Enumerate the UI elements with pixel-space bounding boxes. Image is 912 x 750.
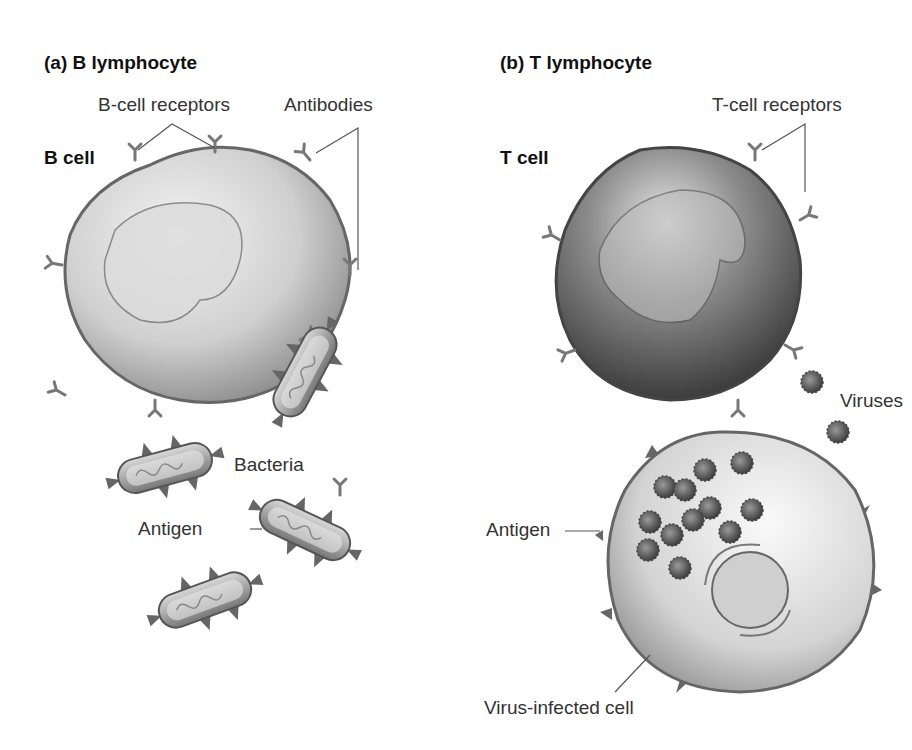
antigen-label-a: Antigen xyxy=(138,518,202,540)
b-cell-label: B cell xyxy=(44,147,95,169)
panel-a-title: (a) B lymphocyte xyxy=(44,52,197,74)
t-cell-receptors-label: T-cell receptors xyxy=(712,94,842,116)
panel-b-title: (b) T lymphocyte xyxy=(500,52,652,74)
virus-infected-cell-label: Virus-infected cell xyxy=(484,697,634,719)
t-cell-label: T cell xyxy=(500,147,549,169)
antibodies-label: Antibodies xyxy=(284,94,373,116)
viruses-label: Viruses xyxy=(840,390,903,412)
antigen-label-b: Antigen xyxy=(486,519,550,541)
t-cell xyxy=(543,144,817,416)
bacteria-label: Bacteria xyxy=(234,454,304,476)
b-cell-receptors-label: B-cell receptors xyxy=(98,94,230,116)
